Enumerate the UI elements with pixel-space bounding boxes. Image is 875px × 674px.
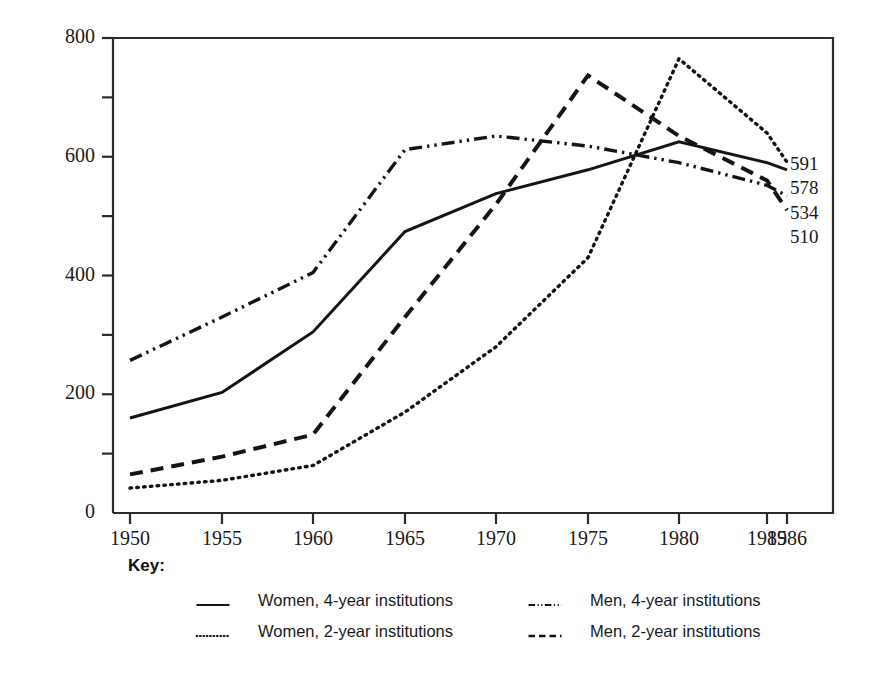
y-tick-label: 200 — [35, 381, 95, 404]
legend-line-swatch — [512, 634, 578, 638]
legend-label: Men, 2-year institutions — [590, 622, 761, 641]
x-tick-label: 1960 — [278, 527, 348, 550]
x-tick-label: 1975 — [553, 527, 623, 550]
y-tick-label: 600 — [35, 144, 95, 167]
y-tick-label: 0 — [35, 500, 95, 523]
chart-figure: First-Time Freshman Enrollments (in thou… — [0, 0, 875, 674]
x-tick-label: 1955 — [187, 527, 257, 550]
series-end-label: 591 — [790, 153, 819, 175]
y-tick-label: 800 — [35, 25, 95, 48]
legend-title: Key: — [128, 556, 165, 576]
x-axis-ticks — [130, 513, 787, 524]
legend-line-swatch — [180, 603, 246, 607]
y-tick-label: 400 — [35, 263, 95, 286]
legend-label: Men, 4-year institutions — [590, 591, 761, 610]
series-line-4 — [130, 75, 787, 474]
y-axis-ticks — [102, 38, 113, 454]
series-line-1 — [130, 142, 787, 418]
x-tick-label: 1950 — [95, 527, 165, 550]
legend-line-swatch — [180, 634, 246, 638]
y-axis-title-wrap: First-Time Freshman Enrollments (in thou… — [0, 38, 34, 516]
legend-label: Women, 4-year institutions — [258, 591, 453, 610]
x-tick-label: 1965 — [370, 527, 440, 550]
series-end-label: 578 — [790, 177, 819, 199]
x-tick-label: 1980 — [644, 527, 714, 550]
legend-line-swatch — [512, 603, 578, 607]
axis-frame — [113, 38, 833, 513]
legend-label: Women, 2-year institutions — [258, 622, 453, 641]
x-tick-label: 1970 — [461, 527, 531, 550]
series-end-label: 534 — [790, 202, 819, 224]
series-end-label: 510 — [790, 226, 819, 248]
series-lines — [130, 59, 787, 488]
series-line-2 — [130, 59, 787, 488]
x-tick-label: 1986 — [752, 527, 822, 550]
